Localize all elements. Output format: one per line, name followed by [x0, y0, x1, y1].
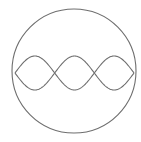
wave-upper-curve: [15, 56, 134, 90]
enclosing-circle: [12, 9, 136, 133]
standing-wave-diagram: [0, 0, 141, 142]
wave-lower-curve: [15, 56, 134, 90]
